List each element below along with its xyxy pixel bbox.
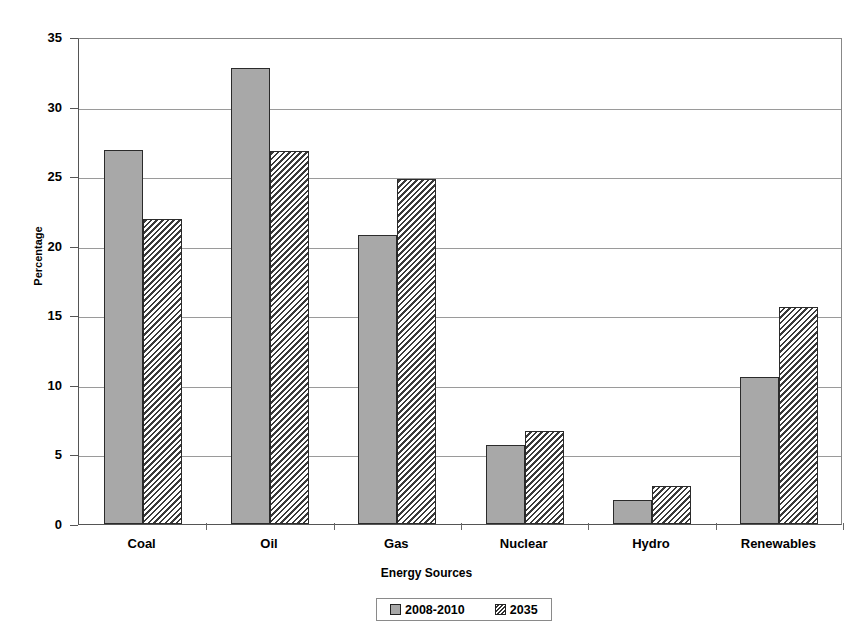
- y-axis-tick-label: 10: [22, 378, 62, 393]
- x-axis-label-coal: Coal: [82, 536, 202, 551]
- bar-renewables-2008-2010[interactable]: [740, 377, 779, 524]
- y-axis-tick-label: 0: [22, 517, 62, 532]
- y-axis-tick-mark: [70, 247, 78, 248]
- y-axis-tick-label: 25: [22, 169, 62, 184]
- y-axis-tick-mark: [70, 316, 78, 317]
- legend-swatch-solid-icon: [390, 604, 401, 615]
- x-axis-separator: [206, 523, 207, 530]
- gridline: [79, 317, 841, 318]
- x-axis-separator: [716, 523, 717, 530]
- bar-coal-2008-2010[interactable]: [104, 150, 143, 524]
- bar-chart: Percentage 05101520253035 CoalOilGasNucl…: [0, 0, 853, 637]
- y-axis-tick-mark: [70, 177, 78, 178]
- y-axis-tick-label: 5: [22, 447, 62, 462]
- x-axis-label-gas: Gas: [336, 536, 456, 551]
- y-axis-tick-mark: [70, 38, 78, 39]
- x-axis-label-nuclear: Nuclear: [464, 536, 584, 551]
- bar-gas-2008-2010[interactable]: [358, 235, 397, 524]
- gridline: [79, 387, 841, 388]
- gridline: [79, 456, 841, 457]
- x-axis-title: Energy Sources: [0, 566, 853, 580]
- bar-hydro-2035[interactable]: [652, 486, 691, 524]
- x-axis-label-hydro: Hydro: [591, 536, 711, 551]
- bar-renewables-2035[interactable]: [779, 307, 818, 524]
- legend-label-series-1: 2008-2010: [405, 603, 465, 617]
- y-axis-tick-label: 35: [22, 30, 62, 45]
- plot-area: [78, 38, 842, 525]
- legend-label-series-2: 2035: [510, 603, 538, 617]
- legend-swatch-hatch-icon: [495, 604, 506, 615]
- y-axis-tick-label: 15: [22, 308, 62, 323]
- x-axis-separator: [334, 523, 335, 530]
- bar-nuclear-2035[interactable]: [525, 431, 564, 524]
- bar-oil-2035[interactable]: [270, 151, 309, 524]
- bar-oil-2008-2010[interactable]: [231, 68, 270, 524]
- y-axis-tick-mark: [70, 386, 78, 387]
- bar-hydro-2008-2010[interactable]: [613, 500, 652, 524]
- y-axis-tick-mark: [70, 108, 78, 109]
- chart-legend: 2008-2010 2035: [376, 598, 552, 621]
- legend-item-series-2[interactable]: 2035: [495, 603, 538, 617]
- y-axis-tick-mark: [70, 455, 78, 456]
- x-axis-separator: [461, 523, 462, 530]
- x-axis-separator: [588, 523, 589, 530]
- gridline: [79, 178, 841, 179]
- y-axis-tick-label: 20: [22, 239, 62, 254]
- x-axis-label-oil: Oil: [209, 536, 329, 551]
- y-axis-title: Percentage: [32, 196, 44, 316]
- bar-nuclear-2008-2010[interactable]: [486, 445, 525, 524]
- gridline: [79, 109, 841, 110]
- x-axis-label-renewables: Renewables: [718, 536, 838, 551]
- bar-coal-2035[interactable]: [143, 219, 182, 524]
- y-axis-tick-mark: [70, 525, 78, 526]
- gridline: [79, 248, 841, 249]
- y-axis-tick-label: 30: [22, 100, 62, 115]
- x-axis-separator: [843, 523, 844, 530]
- bar-gas-2035[interactable]: [397, 179, 436, 524]
- legend-item-series-1[interactable]: 2008-2010: [390, 603, 465, 617]
